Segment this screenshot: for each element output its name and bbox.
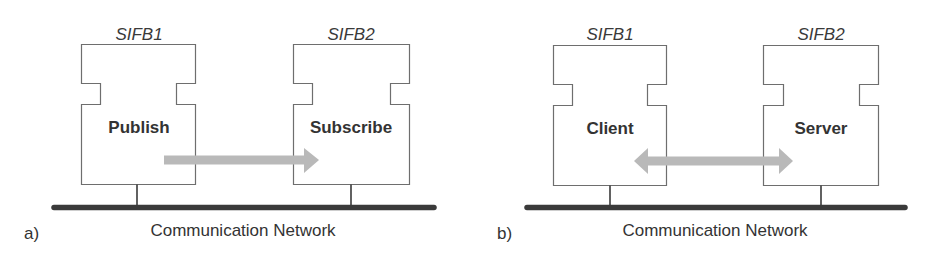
sifb1-name: SIFB1 (115, 26, 162, 43)
sifb2-name: SIFB2 (797, 26, 844, 43)
panel-b (527, 46, 905, 208)
panel-b-label: b) (497, 225, 512, 242)
network-label-b: Communication Network (622, 222, 807, 239)
publish-label: Publish (108, 119, 169, 136)
sifb2-name: SIFB2 (327, 26, 374, 43)
network-label-a: Communication Network (150, 222, 335, 239)
sifb1-name: SIFB1 (586, 26, 633, 43)
server-label: Server (795, 120, 848, 137)
client-label: Client (586, 120, 633, 137)
subscribe-label: Subscribe (310, 119, 392, 136)
panel-a-label: a) (24, 225, 39, 242)
